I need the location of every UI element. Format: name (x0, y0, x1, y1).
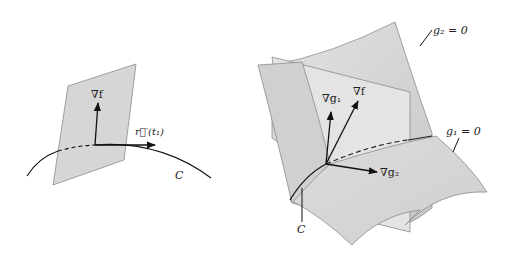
label-grad-f: ∇f (353, 86, 365, 97)
leader-g1 (453, 138, 459, 152)
leader-g2 (420, 30, 432, 46)
diagram-canvas (0, 0, 511, 259)
left-figure (27, 64, 211, 185)
label-gradient-f: ∇f (91, 89, 103, 100)
label-surface-g1: g₁ = 0 (446, 126, 481, 137)
label-curve-c: C (175, 170, 183, 181)
curve-c-left-start (27, 151, 58, 176)
label-grad-g1: ∇g₁ (322, 93, 341, 104)
tangent-plane (53, 64, 136, 185)
label-surface-g2: g₂ = 0 (433, 25, 468, 36)
label-grad-g2: ∇g₂ (380, 167, 399, 178)
label-curve-c-right: C (297, 224, 305, 235)
label-tangent-vector: r⃗′(t₁) (135, 127, 164, 137)
